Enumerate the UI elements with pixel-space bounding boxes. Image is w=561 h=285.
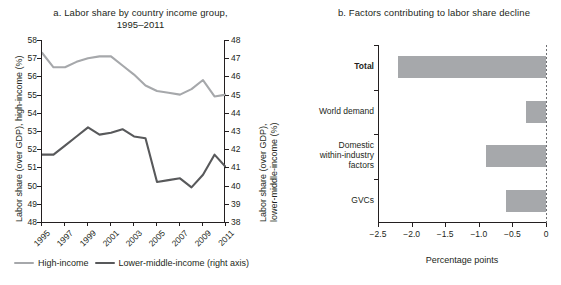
panel-a-y-left-tick-label: 57: [23, 54, 37, 63]
panel-a-x-tick: [87, 222, 88, 226]
panel-a-y-left-tick-label: 56: [23, 72, 37, 81]
panel-a-x-tick-label: 2001: [96, 228, 121, 253]
panel-b-category-label: Domesticwithin-industryfactors: [306, 140, 374, 170]
panel-a-y-right-tick-label: 43: [231, 127, 240, 136]
panel-a-y-right-tick: [225, 58, 229, 59]
panel-b-x-tick: [378, 223, 379, 227]
panel-b-category-label-line: World demand: [306, 106, 374, 116]
legend-item[interactable]: Lower-middle-income (right axis): [95, 258, 250, 268]
panel-b-x-tick: [445, 223, 446, 227]
panel-a-title: a. Labor share by country income group, …: [18, 7, 263, 31]
series-high-income-line: [42, 53, 226, 97]
panel-b-title: b. Factors contributing to labor share d…: [308, 7, 560, 19]
panel-b-category-label-line: GVCs: [306, 195, 374, 205]
panel-a-y-right-tick-label: 46: [231, 72, 240, 81]
table-row[interactable]: [486, 145, 546, 167]
panel-a-y-right-tick: [225, 76, 229, 77]
panel-a-y-right-tick: [225, 204, 229, 205]
panel-b-bar-chart: b. Factors contributing to labor share d…: [300, 0, 561, 285]
panel-b-zero-reference-line: [546, 45, 547, 223]
panel-a-x-tick: [202, 222, 203, 226]
panel-a-y-right-tick-label: 40: [231, 182, 240, 191]
panel-a-y-right-tick-label: 42: [231, 145, 240, 154]
panel-a-title-line1: a. Labor share by country income group,: [18, 7, 263, 19]
panel-a-y-left-tick-label: 53: [23, 127, 37, 136]
table-row[interactable]: [506, 190, 546, 212]
legend-item[interactable]: High-income: [14, 258, 89, 268]
panel-b-x-tick: [546, 223, 547, 227]
panel-a-x-tick: [133, 222, 134, 226]
panel-b-category-label-line: within-industry: [306, 150, 374, 160]
panel-a-x-tick-label: 2003: [119, 228, 144, 253]
panel-a-x-tick-label: 2007: [165, 228, 190, 253]
panel-a-y-right-tick-label: 45: [231, 91, 240, 100]
panel-a-y-right-tick-label: 38: [231, 218, 240, 227]
panel-b-y-axis: [378, 45, 379, 223]
panel-a-y-left-tick-label: 52: [23, 145, 37, 154]
panel-a-y-right-tick: [225, 113, 229, 114]
panel-b-category-tick: [374, 179, 378, 180]
panel-b-x-tick: [512, 223, 513, 227]
panel-a-x-tick: [64, 222, 65, 226]
panel-a-x-tick: [225, 222, 226, 226]
panel-b-category-label: Total: [306, 61, 374, 71]
panel-a-y-right-tick-label: 44: [231, 109, 240, 118]
panel-a-legend: High-incomeLower-middle-income (right ax…: [14, 258, 249, 268]
panel-a-y-left-tick-label: 48: [23, 218, 37, 227]
legend-label: Lower-middle-income (right axis): [119, 258, 250, 268]
panel-a-y-left-tick-label: 55: [23, 91, 37, 100]
panel-a-y-right-tick-label: 39: [231, 200, 240, 209]
panel-b-x-tick-label: −2.0: [394, 229, 430, 239]
panel-a-y-right-axis-label-line1: Labor share (over GDP),: [258, 122, 269, 222]
panel-a-y-left-tick-label: 50: [23, 182, 37, 191]
panel-b-x-tick-label: −1.5: [427, 229, 463, 239]
table-row[interactable]: [398, 56, 546, 78]
panel-a-y-right-tick: [225, 95, 229, 96]
panel-a-y-left-tick: [37, 58, 41, 59]
panel-a-x-tick-label: 1995: [27, 228, 52, 253]
panel-b-x-tick-label: 0: [528, 229, 561, 239]
panel-b-category-label: World demand: [306, 106, 374, 116]
panel-a-x-tick: [110, 222, 111, 226]
panel-a-line-chart: a. Labor share by country income group, …: [0, 0, 300, 285]
panel-a-x-tick: [41, 222, 42, 226]
panel-a-y-right-tick-label: 48: [231, 36, 240, 45]
panel-b-category-label-line: factors: [306, 160, 374, 170]
panel-b-category-tick: [374, 45, 378, 46]
panel-b-x-axis-title: Percentage points: [378, 255, 546, 265]
panel-b-category-tick: [374, 90, 378, 91]
panel-a-y-left-tick-label: 49: [23, 200, 37, 209]
panel-a-y-left-tick: [37, 204, 41, 205]
panel-a-y-right-tick: [225, 131, 229, 132]
panel-b-x-tick-label: −0.5: [494, 229, 530, 239]
panel-a-x-tick: [156, 222, 157, 226]
panel-a-y-left-tick: [37, 40, 41, 41]
panel-a-y-right-tick: [225, 186, 229, 187]
panel-b-category-label-line: Total: [306, 61, 374, 71]
panel-a-y-left-tick: [37, 149, 41, 150]
panel-b-category-tick: [374, 134, 378, 135]
panel-b-plot-area: [378, 45, 546, 223]
panel-a-y-right-tick-label: 47: [231, 54, 240, 63]
panel-a-y-right-tick: [225, 40, 229, 41]
panel-a-y-left-tick: [37, 95, 41, 96]
panel-a-plot-area: [41, 40, 225, 222]
panel-b-x-tick-label: −2.5: [360, 229, 396, 239]
panel-a-x-tick-label: 1999: [73, 228, 98, 253]
panel-a-x-tick: [179, 222, 180, 226]
panel-b-x-tick-label: −1.0: [461, 229, 497, 239]
panel-a-y-right-tick: [225, 167, 229, 168]
panel-a-y-right-axis-label-line2: lower-middle-income (%): [269, 122, 280, 222]
panel-a-series-layer: [42, 40, 226, 222]
legend-swatch-icon: [95, 262, 115, 264]
panel-a-y-left-tick-label: 58: [23, 36, 37, 45]
table-row[interactable]: [526, 101, 546, 123]
panel-b-x-axis: [378, 222, 546, 223]
panel-a-y-left-tick: [37, 186, 41, 187]
panel-a-y-right-tick: [225, 149, 229, 150]
panel-a-x-tick-label: 2011: [211, 228, 236, 253]
panel-b-category-label: GVCs: [306, 195, 374, 205]
panel-a-x-tick-label: 2009: [188, 228, 213, 253]
legend-label: High-income: [38, 258, 89, 268]
panel-b-x-tick: [412, 223, 413, 227]
